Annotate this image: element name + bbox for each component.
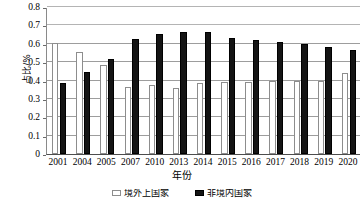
x-tick-label: 2005 [94, 157, 118, 168]
bar-group [269, 8, 283, 154]
bar-light [221, 82, 227, 154]
bar-group [125, 8, 139, 154]
x-tick-label: 2007 [118, 157, 142, 168]
y-tick-label: 0 [0, 150, 40, 160]
bar-group [318, 8, 332, 154]
y-tick-label: 0.3 [0, 95, 40, 105]
bar-dark [350, 50, 356, 154]
bar-series-container [47, 8, 360, 154]
legend-swatch-icon [112, 190, 121, 196]
bar-group [294, 8, 308, 154]
bar-light [245, 82, 251, 154]
legend-item[interactable]: 境外上国家 [112, 189, 169, 198]
bar-group [197, 8, 211, 154]
x-tick-label: 2019 [312, 157, 336, 168]
bar-group [149, 8, 163, 154]
bar-group [221, 8, 235, 154]
bar-dark [108, 59, 114, 154]
x-tick-label: 2010 [143, 157, 167, 168]
y-tick-label: 0.8 [0, 3, 40, 13]
bar-dark [325, 47, 331, 154]
bar-dark [277, 42, 283, 154]
bar-group [342, 8, 356, 154]
chart-legend: 境外上国家非境内国家 [0, 189, 364, 198]
bar-dark [180, 32, 186, 154]
x-tick-label: 2018 [288, 157, 312, 168]
x-axis-title: 年份 [0, 170, 364, 181]
y-tick-label: 0.5 [0, 58, 40, 68]
x-tick-label: 2004 [70, 157, 94, 168]
x-tick-label: 2015 [215, 157, 239, 168]
y-tick-label: 0.4 [0, 77, 40, 87]
y-tick-mark [43, 155, 46, 156]
y-tick-label: 0.2 [0, 113, 40, 123]
bar-dark [156, 34, 162, 154]
x-tick-label: 2014 [191, 157, 215, 168]
legend-label: 非境内国家 [207, 189, 252, 198]
bar-light [125, 87, 131, 154]
bar-dark [229, 38, 235, 154]
y-tick-label: 0.1 [0, 132, 40, 142]
bar-light [197, 83, 203, 154]
y-tick-label: 0.7 [0, 21, 40, 31]
legend-label: 境外上国家 [124, 189, 169, 198]
gridline [47, 6, 360, 7]
bar-light [149, 85, 155, 154]
bar-light [342, 73, 348, 154]
bar-dark [301, 44, 307, 154]
bar-dark [132, 39, 138, 154]
plot-area [46, 8, 360, 155]
x-tick-label: 2017 [263, 157, 287, 168]
bar-light [318, 81, 324, 155]
bar-light [76, 52, 82, 154]
bar-dark [84, 72, 90, 154]
bar-light [173, 88, 179, 154]
bar-dark [205, 32, 211, 154]
bar-dark [60, 83, 66, 154]
x-tick-label: 2013 [167, 157, 191, 168]
x-axis-ticks: 2001200420052007201020132014201520162017… [46, 157, 360, 169]
y-tick-label: 0.6 [0, 40, 40, 50]
bar-group [52, 8, 66, 154]
bar-light [52, 43, 58, 154]
bar-group [173, 8, 187, 154]
x-tick-label: 2001 [46, 157, 70, 168]
bar-dark [253, 40, 259, 154]
x-tick-label: 2016 [239, 157, 263, 168]
bar-group [100, 8, 114, 154]
x-tick-label: 2020 [336, 157, 360, 168]
bar-group [76, 8, 90, 154]
legend-swatch-icon [195, 190, 204, 196]
bar-group [245, 8, 259, 154]
bar-light [100, 65, 106, 154]
legend-item[interactable]: 非境内国家 [195, 189, 252, 198]
bar-light [269, 81, 275, 154]
bar-chart: 占比/% 00.10.20.30.40.50.60.70.8 200120042… [0, 0, 364, 198]
bar-light [294, 81, 300, 155]
